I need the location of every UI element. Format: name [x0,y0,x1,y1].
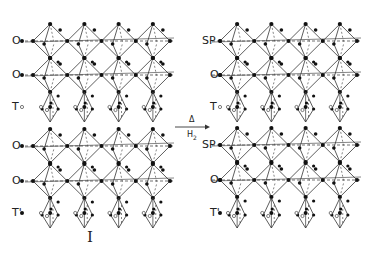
structure-label-I: I [87,228,93,246]
layer-label-t: T [210,101,217,112]
layer-label-t-prime: T' [12,207,22,218]
layer-label-o: O [12,140,21,151]
layer-label-t-prime: T' [210,207,220,218]
layer-label-o: O [12,69,21,80]
layer-label-o: O [210,174,219,185]
layer-label-sp: SP [202,139,216,150]
arrow-condition-hydrogen: H2 [187,130,197,141]
layer-label-sp: SP [202,35,216,46]
layer-label-o: O [12,175,21,186]
layer-label-t: T [12,101,19,112]
arrow-condition-heat: Δ [189,115,194,124]
layer-label-o: O [210,69,219,80]
layer-label-o: O [12,35,21,46]
crystal-structure-diagram: I Δ H2 OOTOOT' SPOTSPOT' [0,0,378,272]
